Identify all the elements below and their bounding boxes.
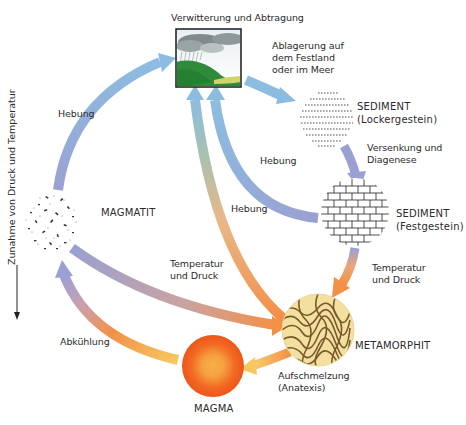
pressure-temperature-axis-arrow [14, 265, 20, 320]
edge-label-magmatit-metamorphism: Temperatur und Druck [170, 258, 224, 282]
node-label-sediment-solid: SEDIMENT (Festgestein) [396, 207, 464, 233]
edge-label-diagenesis: Versenkung und Diagenese [367, 142, 442, 166]
edge-label-anatexis: Aufschmelzung (Anatexis) [278, 370, 350, 394]
rock-cycle-diagram: Zunahme von Druck und Temperatur Verwitt… [0, 0, 466, 425]
metamorphic-rock-icon [282, 294, 354, 374]
loose-sediment-icon [300, 93, 354, 146]
weathering-landscape-icon [176, 29, 244, 88]
node-label-metamorphit: METAMORPHIT [355, 339, 430, 352]
node-label-sediment-loose: SEDIMENT (Lockergestein) [357, 100, 437, 126]
igneous-rock-icon [22, 192, 82, 252]
node-label-magmatit: MAGMATIT [101, 206, 156, 219]
arrow-hebung-magmatit [58, 62, 160, 190]
magma-icon [182, 335, 244, 397]
edge-label-uplift-sediment: Hebung [260, 155, 297, 167]
edge-label-cooling: Abkühlung [60, 336, 110, 348]
pressure-temperature-axis-label: Zunahme von Druck und Temperatur [6, 89, 17, 265]
edge-label-uplift-metamorphit: Hebung [231, 203, 268, 215]
node-label-weathering: Verwitterung und Abtragung [171, 12, 304, 24]
edge-label-deposition: Ablagerung auf dem Festland oder im Meer [272, 40, 344, 76]
node-label-magma: MAGMA [194, 402, 234, 415]
edge-label-uplift-magmatit: Hebung [58, 108, 95, 120]
edge-label-sediment-metamorphism: Temperatur und Druck [372, 262, 426, 286]
solid-sediment-icon [320, 178, 390, 248]
